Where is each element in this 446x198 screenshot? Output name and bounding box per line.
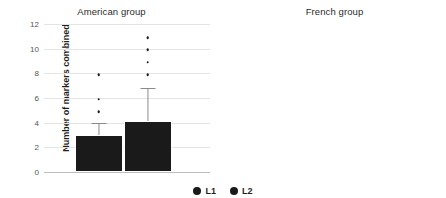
chart-title-french: French group [223,6,446,17]
scatter-point [146,61,149,64]
scatter-point [97,98,100,101]
legend-item-l1[interactable]: L1 [193,186,216,196]
gridline [44,98,210,99]
legend: L1L2 [0,186,446,196]
y-axis-tick-label: 4 [35,118,39,127]
chart-panel-american: American group 024681012 [0,0,223,176]
plot-area-american: 024681012 [44,24,210,172]
error-bar-cap-l1 [91,123,106,124]
legend-item-l2[interactable]: L2 [230,186,253,196]
error-bar-stem-l1 [98,123,99,135]
error-bar-stem-l2 [147,88,148,121]
y-axis-tick-label: 6 [35,94,39,103]
legend-label: L1 [205,186,216,196]
bar-l2 [124,121,172,172]
legend-swatch-icon [193,187,201,195]
axis-baseline [44,172,210,173]
bar-l1 [75,135,123,172]
scatter-point [146,36,149,39]
y-axis-tick-label: 2 [35,143,39,152]
y-axis-tick-label: 12 [30,20,39,29]
legend-label: L2 [242,186,253,196]
scatter-point [146,49,149,52]
error-bar-cap-l2 [140,88,155,89]
scatter-point [146,73,149,76]
chart-panel-french: French group 0246810121416 [223,0,446,176]
gridline [44,49,210,50]
scatter-point [97,110,100,113]
gridline [44,73,210,74]
chart-title-american: American group [0,6,223,17]
y-axis-tick-label: 0 [35,168,39,177]
figure-container: Number of markers combined American grou… [0,0,446,198]
scatter-point [97,73,100,76]
gridline [44,24,210,25]
y-axis-tick-label: 8 [35,69,39,78]
legend-swatch-icon [230,187,238,195]
y-axis-tick-label: 10 [30,44,39,53]
